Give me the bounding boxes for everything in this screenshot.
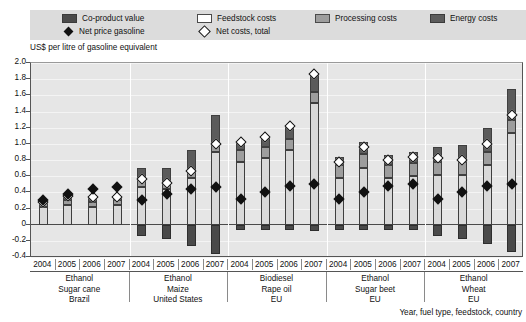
plot-area: [30, 62, 523, 256]
square-swatch-dark-icon: [62, 14, 77, 23]
bar-column[interactable]: [63, 63, 72, 257]
bar-segment-feedstock-costs: [88, 207, 97, 225]
zero-line: [31, 224, 522, 225]
x-axis-year-label: 2006: [375, 257, 400, 272]
gridline: [31, 95, 522, 96]
bar-segment-co-product-value: [261, 225, 270, 230]
bar-column[interactable]: [507, 63, 516, 257]
x-axis-group-label: EthanolMaizeUnited States: [129, 274, 228, 306]
x-axis-divider: [326, 259, 327, 270]
x-axis-group-label-fuel: Ethanol: [30, 274, 129, 285]
x-axis-divider: [400, 259, 401, 270]
x-axis-group-label: EthanolWheatEU: [424, 274, 523, 306]
x-axis-year-label: 2004: [424, 257, 449, 272]
bar-column[interactable]: [310, 63, 319, 257]
bar-segment-feedstock-costs: [458, 175, 467, 225]
bar-column[interactable]: [88, 63, 97, 257]
x-axis-year-label: 2005: [252, 257, 277, 272]
x-axis-divider: [449, 259, 450, 270]
y-axis-tick-mark: [26, 78, 30, 79]
bar-segment-processing-costs: [384, 165, 393, 178]
x-axis-year-label: 2007: [400, 257, 425, 272]
gridline: [31, 209, 522, 210]
gridline: [31, 241, 522, 242]
x-axis-group-label: EthanolSugar caneBrazil: [30, 274, 129, 306]
y-axis-tick-mark: [26, 62, 30, 63]
square-swatch-white-icon: [197, 14, 212, 23]
legend-label: Energy costs: [450, 14, 497, 23]
y-axis-tick-label: 0: [0, 219, 26, 228]
bar-column[interactable]: [39, 63, 48, 257]
square-swatch-energy-icon: [430, 14, 445, 23]
legend-label: Net price gasoline: [79, 27, 145, 36]
y-axis-tick-mark: [26, 240, 30, 241]
bar-segment-co-product-value: [458, 225, 467, 240]
x-axis-group-label-country: United States: [129, 295, 228, 306]
x-axis-group-label: BiodieselRape oilEU: [227, 274, 326, 306]
x-axis-year-label: 2004: [326, 257, 351, 272]
bar-column[interactable]: [137, 63, 146, 257]
gridline: [31, 144, 522, 145]
y-axis-tick-mark: [26, 224, 30, 225]
x-axis-group-label-fuel: Ethanol: [424, 274, 523, 285]
y-axis-tick-mark: [26, 191, 30, 192]
x-axis-divider: [474, 259, 475, 270]
bar-segment-co-product-value: [162, 225, 171, 240]
gridline: [31, 112, 522, 113]
bar-column[interactable]: [211, 63, 220, 257]
x-axis-group-label-feedstock: Rape oil: [227, 285, 326, 296]
y-axis-tick-label: 0.8: [0, 154, 26, 163]
y-axis-tick-label: 2.0: [0, 57, 26, 66]
group-label-separator: [326, 272, 327, 302]
x-axis-group-label-feedstock: Wheat: [424, 285, 523, 296]
x-axis-year-label: 2004: [129, 257, 154, 272]
y-axis-tick-label: 1.4: [0, 106, 26, 115]
x-axis-year-label: 2004: [227, 257, 252, 272]
bar-column[interactable]: [359, 63, 368, 257]
bar-column[interactable]: [162, 63, 171, 257]
bar-segment-co-product-value: [433, 225, 442, 236]
bar-segment-feedstock-costs: [63, 205, 72, 224]
x-axis-year-label: 2007: [203, 257, 228, 272]
bar-segment-co-product-value: [211, 225, 220, 254]
bar-column[interactable]: [285, 63, 294, 257]
bar-column[interactable]: [261, 63, 270, 257]
x-axis-year-label: 2005: [350, 257, 375, 272]
x-axis-year-label: 2006: [474, 257, 499, 272]
bar-segment-co-product-value: [507, 225, 516, 252]
y-axis-tick-label: 1.8: [0, 73, 26, 82]
x-axis-group-label-feedstock: Maize: [129, 285, 228, 296]
bar-segment-co-product-value: [285, 225, 294, 230]
x-axis-divider: [252, 259, 253, 270]
gridline: [31, 192, 522, 193]
bar-segment-processing-costs: [310, 92, 319, 103]
x-axis-divider: [498, 259, 499, 270]
x-axis-year-label: 2005: [449, 257, 474, 272]
x-axis-year-label: 2005: [153, 257, 178, 272]
x-axis-divider: [277, 259, 278, 270]
x-axis-year-label: 2006: [178, 257, 203, 272]
bar-column[interactable]: [483, 63, 492, 257]
x-axis-group-label-fuel: Biodiesel: [227, 274, 326, 285]
bar-segment-co-product-value: [187, 225, 196, 246]
legend-item-net-price-gasoline: Net price gasoline: [62, 27, 145, 36]
x-axis-caption: Year, fuel type, feedstock, country: [399, 308, 522, 317]
x-axis-year-label: 2006: [79, 257, 104, 272]
bar-segment-processing-costs: [261, 147, 270, 158]
y-axis-tick-mark: [26, 127, 30, 128]
bar-segment-co-product-value: [359, 225, 368, 230]
x-axis-year-label: 2007: [498, 257, 523, 272]
square-swatch-mid-icon: [315, 14, 330, 23]
y-axis-tick-label: 0.2: [0, 203, 26, 212]
x-axis-year-label: 2005: [55, 257, 80, 272]
x-axis-group-label: EthanolSugar beetEU: [326, 274, 425, 306]
bar-segment-processing-costs: [359, 154, 368, 169]
bar-column[interactable]: [187, 63, 196, 257]
x-axis-divider: [424, 259, 425, 270]
y-axis-tick-mark: [26, 175, 30, 176]
bar-column[interactable]: [113, 63, 122, 257]
bar-column[interactable]: [236, 63, 245, 257]
y-axis-tick-label: 1.6: [0, 89, 26, 98]
y-axis-tick-mark: [26, 208, 30, 209]
x-axis-group-label-feedstock: Sugar beet: [326, 285, 425, 296]
